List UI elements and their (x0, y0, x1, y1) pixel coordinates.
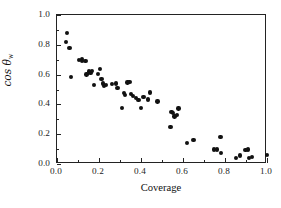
data-point (246, 147, 250, 151)
y-axis-title-text: cos θ (1, 59, 13, 87)
data-point (148, 90, 152, 94)
xtick-label: 0.2 (81, 166, 115, 176)
data-point (115, 86, 119, 90)
ytick-label: 0.2 (18, 128, 50, 138)
data-point (64, 40, 68, 44)
data-point (155, 99, 159, 103)
scatter-plot-figure: 1.0 0.8 0.6 0.4 0.2 0.0 0.0 0.2 0.4 0.6 … (0, 0, 281, 208)
data-point (139, 106, 143, 110)
data-point (238, 153, 242, 157)
data-point (219, 151, 223, 155)
x-axis-tick (267, 158, 268, 163)
y-axis-tick (57, 164, 62, 165)
data-point (120, 106, 124, 110)
ytick-label: 0.4 (18, 98, 50, 108)
x-axis-title: Coverage (56, 182, 266, 193)
y-axis-title: cos θw (1, 40, 16, 100)
xtick-label: 0.8 (207, 166, 241, 176)
ytick-label: 0.8 (18, 39, 50, 49)
data-point (98, 67, 102, 71)
data-point (168, 125, 172, 129)
data-point (96, 72, 100, 76)
xtick-label: 0.0 (39, 166, 73, 176)
ytick-label: 1.0 (18, 9, 50, 19)
ytick-label: 0.6 (18, 69, 50, 79)
data-point (146, 97, 150, 101)
plot-area (56, 14, 266, 163)
data-point (90, 69, 94, 73)
xtick-label: 1.0 (249, 166, 281, 176)
data-point (69, 75, 73, 79)
data-point (65, 31, 69, 35)
xtick-label: 0.6 (165, 166, 199, 176)
data-point (136, 98, 140, 102)
data-point (175, 113, 179, 117)
data-point (99, 77, 103, 81)
data-point (104, 83, 108, 87)
xtick-label: 0.4 (123, 166, 157, 176)
data-point (176, 106, 180, 110)
data-point (123, 93, 127, 97)
data-point (250, 155, 254, 159)
data-point (83, 59, 87, 63)
data-point (191, 138, 195, 142)
data-point (127, 80, 131, 84)
y-axis-title-subscript: w (7, 54, 15, 59)
data-point (218, 135, 222, 139)
data-point (92, 83, 96, 87)
data-point (265, 153, 269, 157)
data-point (67, 46, 71, 50)
data-point (185, 141, 189, 145)
data-points-layer (57, 15, 265, 162)
